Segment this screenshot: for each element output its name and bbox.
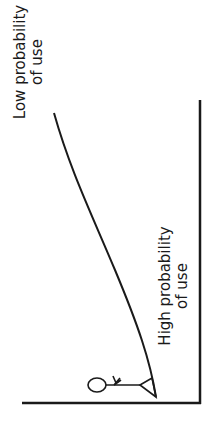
low-probability-line2: of use (29, 3, 46, 121)
high-probability-line2: of use (174, 222, 191, 350)
low-probability-line1: Low probability (12, 3, 29, 121)
high-probability-line1: High probability (157, 222, 174, 350)
low-probability-label: Low probability of use (12, 3, 46, 121)
stick-figure-icon (88, 376, 156, 397)
probability-curve (54, 113, 156, 397)
high-probability-label: High probability of use (157, 222, 191, 350)
